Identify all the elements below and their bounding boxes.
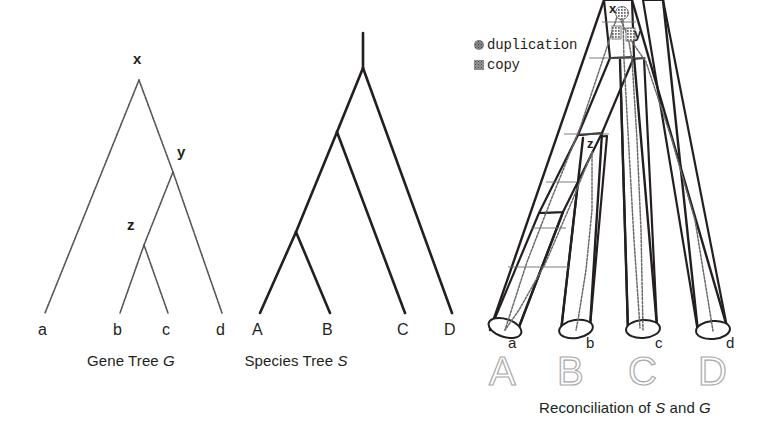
recon-node-label-z: z — [587, 136, 594, 151]
legend-label-duplication: duplication — [487, 37, 577, 53]
copy-mark-left — [612, 26, 621, 39]
duplication-mark — [616, 7, 629, 20]
recon-caption-conjunction: and — [665, 399, 699, 416]
recon-gene-leaf-d: d — [726, 334, 734, 351]
reconciliation-caption: Reconciliation of S and G — [539, 399, 711, 416]
recon-species-letter-B: B — [557, 351, 584, 391]
legend-item-copy: copy — [474, 57, 520, 73]
species-tube-A — [490, 212, 563, 330]
recon-species-letter-C: C — [628, 351, 657, 391]
reconciliation-panel: duplication copy x y z a b c d A B C D R… — [0, 0, 765, 435]
recon-gene-leaf-b: b — [586, 334, 594, 351]
recon-caption-symbol-g: G — [699, 399, 711, 416]
recon-node-label-y: y — [634, 26, 641, 41]
recon-species-letter-A: A — [489, 351, 516, 391]
legend-item-duplication: duplication — [474, 37, 577, 53]
duplication-swatch-icon — [474, 40, 484, 50]
recon-caption-prefix: Reconciliation of — [539, 399, 655, 416]
recon-species-letter-D: D — [698, 351, 727, 391]
recon-node-label-x: x — [609, 1, 616, 16]
figure-canvas: x y z a b c d Gene Tree G A B C D — [0, 0, 765, 435]
legend-label-copy: copy — [487, 57, 520, 73]
recon-caption-symbol-s: S — [655, 399, 665, 416]
copy-swatch-icon — [474, 60, 484, 70]
